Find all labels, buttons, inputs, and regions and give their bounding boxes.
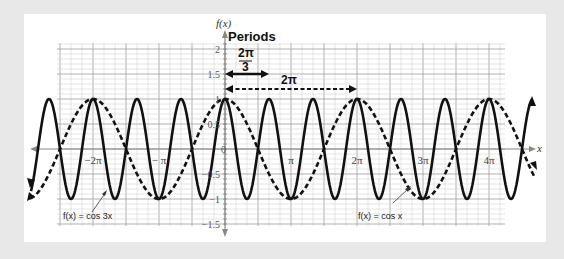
cosx-left-arrow-icon	[27, 192, 35, 201]
x-tick-label: − π	[152, 154, 167, 166]
period-small-denominator: 3	[242, 60, 249, 74]
period-small-numerator: 2π	[238, 46, 254, 60]
x-tick-label: 3π	[417, 154, 429, 166]
y-tick-label: 2	[215, 44, 220, 55]
y-tick-label: 1.5	[208, 69, 221, 80]
x-tick-label: −2π	[84, 154, 102, 166]
origin-label: 0	[221, 144, 226, 155]
x-axis-right-arrow-icon	[529, 146, 536, 152]
legend-cos3x: f(x) = cos 3x	[63, 211, 113, 221]
cosx-right-arrow-icon	[530, 161, 537, 170]
x-axis-left-arrow-icon	[30, 146, 37, 152]
x-tick-label: 2π	[351, 154, 363, 166]
y-tick-label: −0.5	[202, 169, 220, 180]
y-tick-label: 0.5	[208, 119, 221, 130]
legend-pointer-cosx	[393, 186, 411, 203]
cos3x-right-arrow-icon	[528, 96, 536, 106]
y-tick-label: −1.5	[202, 219, 220, 230]
chart-title: Periods	[228, 29, 276, 44]
x-axis-label: x	[536, 142, 542, 154]
y-axis-down-arrow-icon	[222, 229, 228, 237]
x-tick-label: π	[288, 154, 294, 166]
y-tick-label: 1	[215, 94, 220, 105]
chart-axes	[30, 30, 536, 237]
legend-cosx: f(x) = cos x	[358, 211, 403, 221]
chart-grid	[57, 43, 505, 226]
chart-plot: f(x) Periods 2π 3 2π x 0 f(x) = cos 3x f…	[0, 0, 564, 259]
x-tick-label: 4π	[483, 154, 495, 166]
y-tick-label: −1	[209, 194, 220, 205]
period-large-label: 2π	[281, 73, 297, 87]
